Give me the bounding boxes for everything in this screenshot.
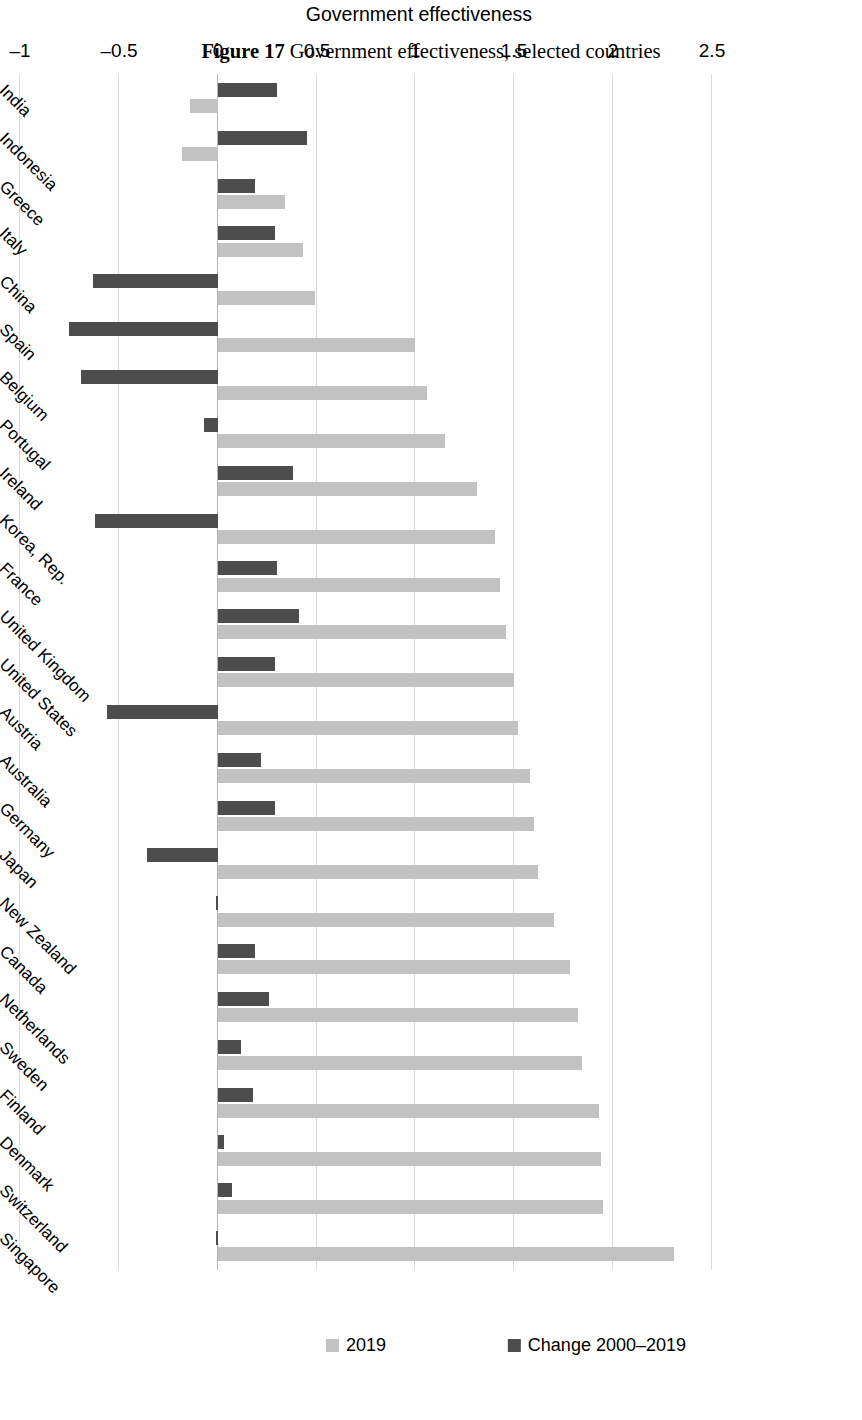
bar-change [218,1088,254,1102]
bar-change [218,226,275,240]
bar-change [218,1135,224,1149]
figure-page: 2019 Change 2000–2019 SingaporeSwitzerla… [0,0,862,1420]
bar-change [93,274,218,288]
bar-change [218,131,307,145]
bar-change [218,1040,242,1054]
bar-2019 [218,960,570,974]
bar-change [204,418,218,432]
gridline [118,74,119,1270]
legend-label: 2019 [346,1335,386,1356]
figure-caption: Figure 17 Government effectiveness, sele… [0,40,862,63]
bar-change [218,466,293,480]
bar-2019 [218,1056,582,1070]
bar-2019 [218,243,303,257]
bar-change [81,370,217,384]
bar-2019 [218,1008,578,1022]
bar-2019 [218,1247,675,1261]
bar-change [218,1183,232,1197]
bar-change [218,609,299,623]
bar-2019 [218,1200,604,1214]
bar-2019 [190,99,218,113]
bar-2019 [218,386,428,400]
bar-2019 [218,913,554,927]
bar-2019 [218,195,285,209]
value-axis-title: Government effectiveness [306,3,532,26]
figure-number: Figure 17 [201,40,284,62]
bar-2019 [218,482,477,496]
legend-swatch-icon [508,1339,521,1352]
category-label: India [0,81,35,121]
gridline [711,74,712,1270]
bar-2019 [218,673,515,687]
bar-2019 [218,1104,600,1118]
bar-2019 [218,625,507,639]
gridline [612,74,613,1270]
bar-change [107,705,218,719]
category-label: Finland [0,1085,49,1139]
bar-change [147,848,218,862]
bar-2019 [218,721,519,735]
bar-2019 [218,769,530,783]
bar-change [218,992,269,1006]
figure-title: Government effectiveness, selected count… [290,40,661,62]
bar-change [95,514,218,528]
bar-change [218,657,275,671]
bar-2019 [218,338,416,352]
chart-legend: 2019 Change 2000–2019 [166,1328,686,1358]
gridline [513,74,514,1270]
bar-change [218,179,256,193]
bar-2019 [218,1152,602,1166]
bar-change [218,944,256,958]
legend-item-change[interactable]: Change 2000–2019 [508,1332,686,1358]
bar-change [218,561,277,575]
bar-change [216,1231,218,1245]
legend-label: Change 2000–2019 [528,1335,686,1356]
legend-swatch-icon [326,1339,339,1352]
rotated-figure-canvas: 2019 Change 2000–2019 SingaporeSwitzerla… [0,0,862,1420]
bar-change [69,322,217,336]
bar-change [218,753,261,767]
bar-change [218,801,275,815]
bar-2019 [218,817,534,831]
category-label: China [0,272,40,318]
legend-item-2019[interactable]: 2019 [326,1332,386,1358]
category-label: United Kingdom [0,607,95,707]
bar-2019 [218,865,538,879]
bar-2019 [218,434,445,448]
bar-2019 [182,147,218,161]
bar-2019 [218,291,315,305]
bar-change [218,83,277,97]
bar-chart-plot: SingaporeSwitzerlandDenmarkFinlandSweden… [20,74,712,1270]
bar-2019 [218,578,501,592]
gridline [316,74,317,1270]
bar-change [216,896,218,910]
category-label: Italy [0,224,31,260]
bar-2019 [218,530,495,544]
gridline [414,74,415,1270]
